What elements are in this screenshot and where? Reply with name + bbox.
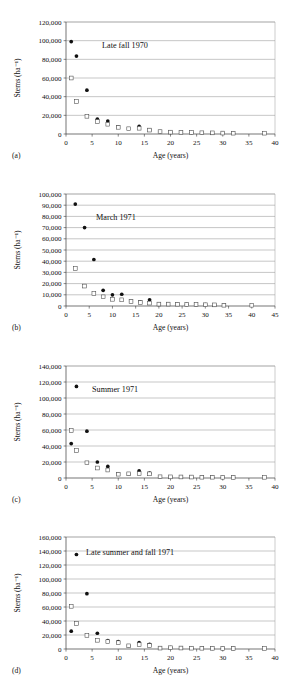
chart-svg-c: 020,00040,00060,00080,000100,000120,0001… [0,344,284,516]
x-tick-label: 15 [141,654,149,662]
data-point-filled [92,257,96,261]
data-point-open [213,303,217,307]
data-point-open [158,130,162,134]
data-point-open [157,302,161,306]
panel-annotation: Summer 1971 [92,385,138,394]
x-tick-label: 10 [115,482,123,490]
y-tick-label: 100,000 [38,576,62,584]
data-point-open [75,448,79,452]
y-tick-label: 120,000 [38,562,62,570]
data-point-open [69,428,73,432]
y-tick-label: 60,000 [42,235,62,243]
data-point-open [194,302,198,306]
data-point-open [101,295,105,299]
x-tick-label: 5 [87,310,91,318]
x-tick-label: 35 [245,139,253,147]
data-point-open [148,301,152,305]
x-tick-label: 10 [115,654,123,662]
data-point-open [69,605,73,609]
y-tick-label: 0 [58,131,62,139]
data-point-open [129,299,133,303]
y-axis-title: Stems (ha⁻¹) [13,230,22,269]
x-tick-label: 0 [64,654,68,662]
y-tick-label: 0 [58,474,62,482]
data-point-open [120,298,124,302]
y-tick-label: 40,000 [42,618,62,626]
y-tick-label: 120,000 [38,19,62,27]
data-point-filled [75,384,79,388]
y-axis-title: Stems (ha⁻¹) [13,402,22,441]
y-tick-label: 80,000 [42,590,62,598]
data-point-open [176,302,180,306]
x-tick-label: 5 [90,654,94,662]
chart-panel-c: 020,00040,00060,00080,000100,000120,0001… [0,344,284,516]
y-tick-label: 140,000 [38,362,62,370]
data-point-open [148,471,152,475]
x-tick-label: 40 [271,482,279,490]
data-point-filled [96,632,100,636]
x-tick-label: 15 [132,310,140,318]
data-point-open [95,466,99,470]
data-point-open [221,475,225,479]
data-point-filled [96,460,100,464]
data-point-filled [75,553,79,557]
y-tick-label: 80,000 [42,213,62,221]
series-open-square [69,428,266,479]
data-point-open [116,641,120,645]
data-point-filled [85,592,89,596]
x-tick-label: 5 [90,482,94,490]
x-tick-label: 15 [141,139,149,147]
x-tick-label: 5 [90,139,94,147]
data-point-open [221,131,225,135]
y-tick-label: 50,000 [42,246,62,254]
data-point-open [179,130,183,134]
data-point-open [127,127,131,131]
data-point-open [179,475,183,479]
data-point-open [95,120,99,124]
data-point-open [210,475,214,479]
y-tick-label: 100,000 [38,190,62,198]
data-point-open [95,639,99,643]
data-point-open [200,647,204,651]
x-tick-label: 40 [248,310,256,318]
data-point-filled [69,630,73,634]
panel-label: (a) [12,151,21,160]
data-point-open [200,131,204,135]
series-filled-circle [69,40,235,135]
data-point-open [169,646,173,650]
data-point-open [263,475,267,479]
data-point-filled [73,202,77,206]
x-axis-title: Age (years) [153,495,189,504]
y-axis-title: Stems (ha⁻¹) [13,573,22,612]
x-tick-label: 35 [245,482,253,490]
data-point-filled [106,464,110,468]
data-point-open [127,471,131,475]
x-tick-label: 35 [245,654,253,662]
data-point-open [231,475,235,479]
x-tick-label: 30 [219,139,227,147]
y-tick-label: 40,000 [42,257,62,265]
x-tick-label: 0 [64,310,68,318]
data-point-open [106,468,110,472]
series-open-square [69,605,266,651]
x-tick-label: 15 [141,482,149,490]
data-point-open [148,644,152,648]
y-tick-label: 30,000 [42,269,62,277]
x-tick-label: 40 [271,139,279,147]
x-tick-label: 25 [193,654,201,662]
y-tick-label: 20,000 [42,458,62,466]
x-tick-label: 30 [219,482,227,490]
data-point-open [106,122,110,126]
data-point-open [263,131,267,135]
plot-area-c: 020,00040,00060,00080,000100,000120,0001… [0,344,284,516]
data-point-open [250,303,254,307]
data-point-open [190,131,194,135]
x-tick-label: 40 [271,654,279,662]
data-point-open [169,474,173,478]
data-point-open [221,647,225,651]
data-point-open [179,646,183,650]
data-point-filled [85,88,89,92]
data-point-filled [111,293,115,297]
data-point-filled [85,429,89,433]
x-tick-label: 45 [271,310,279,318]
